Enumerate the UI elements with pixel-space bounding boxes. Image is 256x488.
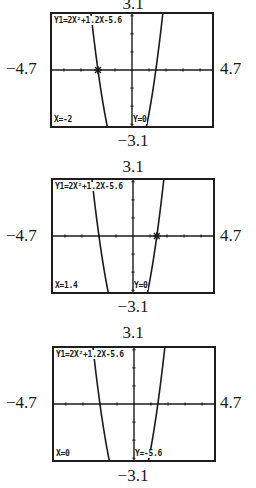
graph-plot [54,348,214,460]
graph-panel-3: 3.1 Y1=2X²+1.2X-5.6 X=0 Y=-5.6 −4.7 4.7 … [0,324,256,487]
xmax-label: 4.7 [220,227,241,244]
equation-label: Y1=2X²+1.2X-5.6 [56,350,124,359]
y-readout: Y=0 [133,115,147,124]
graph-plot [52,14,212,126]
calculator-screen: Y1=2X²+1.2X-5.6 X=1.4 Y=0 [51,178,215,294]
ymin-label: −3.1 [0,132,256,149]
ymin-label: −3.1 [0,467,256,484]
xmin-label: −4.7 [6,227,37,244]
graph-plot [53,180,213,292]
equation-label: Y1=2X²+1.2X-5.6 [54,16,122,25]
calculator-screen: Y1=2X²+1.2X-5.6 X=0 Y=-5.6 [52,346,216,462]
x-readout: X=1.4 [55,281,78,290]
graph-panel-2: 3.1 Y1=2X²+1.2X-5.6 X=1.4 Y=0 −4.7 4.7 −… [0,158,256,321]
graph-panel-1: 3.1 Y1=2X²+1.2X-5.6 X=-2 Y=0 −4.7 4.7 −3… [0,0,256,158]
ymax-label: 3.1 [0,158,256,175]
calculator-screen: Y1=2X²+1.2X-5.6 X=-2 Y=0 [50,12,214,128]
trace-cursor-icon [94,66,102,74]
x-readout: X=-2 [54,115,72,124]
equation-label: Y1=2X²+1.2X-5.6 [55,182,123,191]
y-readout: Y=-5.6 [135,449,162,458]
xmin-label: −4.7 [6,394,37,411]
xmin-label: −4.7 [6,60,37,77]
ymax-label: 3.1 [0,0,256,12]
ymin-label: −3.1 [0,298,256,315]
xmax-label: 4.7 [220,60,241,77]
y-readout: Y=0 [134,281,148,290]
trace-cursor-icon [153,232,161,240]
ymax-label: 3.1 [0,324,256,341]
x-readout: X=0 [56,449,70,458]
xmax-label: 4.7 [220,394,241,411]
